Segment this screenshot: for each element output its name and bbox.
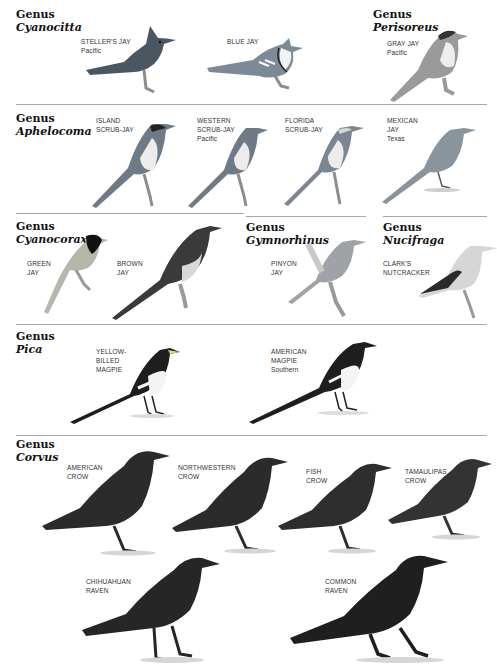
genus-label: Genus — [16, 331, 55, 344]
brown-jay-illustration — [110, 222, 222, 320]
stellers-jay-illustration — [84, 22, 180, 98]
genus-name: Aphelocoma — [16, 126, 92, 139]
genus-label: Genus — [16, 9, 82, 22]
green-jay-illustration — [42, 230, 108, 314]
american-magpie-illustration — [247, 334, 379, 426]
genus-heading-pica: Genus Pica — [16, 331, 55, 356]
american-crow-illustration — [40, 446, 170, 558]
tamaulipas-crow-illustration — [386, 454, 492, 540]
section-divider — [16, 213, 244, 214]
section-divider — [383, 216, 487, 217]
genus-label: Genus — [16, 113, 92, 126]
section-divider — [16, 435, 487, 436]
genus-label: Genus — [246, 222, 329, 235]
blue-jay-illustration — [205, 34, 305, 92]
genus-name: Cyanocitta — [16, 22, 82, 35]
genus-name: Pica — [16, 344, 55, 357]
common-raven-illustration — [288, 550, 452, 666]
pinyon-jay-illustration — [286, 236, 366, 320]
section-divider — [246, 216, 366, 217]
northwestern-crow-illustration — [170, 452, 288, 556]
island-scrub-jay-illustration — [88, 118, 178, 210]
yellow-billed-magpie-illustration — [68, 342, 180, 426]
chihuahuan-raven-illustration — [80, 554, 222, 666]
section-divider — [16, 324, 487, 325]
fish-crow-illustration — [276, 460, 394, 556]
gray-jay-illustration — [388, 20, 468, 104]
clarks-nutcracker-illustration — [416, 240, 497, 324]
mexican-jay-illustration — [380, 124, 476, 206]
section-divider — [16, 104, 487, 105]
genus-label: Genus — [383, 222, 444, 235]
florida-scrub-jay-illustration — [282, 124, 366, 208]
western-scrub-jay-illustration — [186, 124, 270, 210]
genus-heading-aphelocoma: Genus Aphelocoma — [16, 113, 92, 138]
genus-heading-cyanocitta: Genus Cyanocitta — [16, 9, 82, 34]
